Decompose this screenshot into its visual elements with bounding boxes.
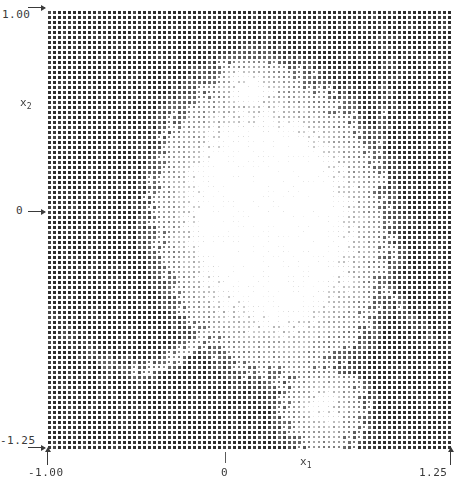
x-axis-tick-label-zero: 0 <box>221 466 228 479</box>
y-axis-title-subscript: 2 <box>27 102 32 111</box>
plot-figure: 1.00 0 -1.25 x2 -1.00 0 1.25 x1 <box>0 0 460 493</box>
y-axis-zero-arrow-icon <box>28 211 45 212</box>
dot-matrix-plot-canvas <box>47 10 451 450</box>
x-axis-zero-tick-icon <box>225 452 226 463</box>
y-axis-title: x2 <box>20 96 31 111</box>
y-axis-min-arrow-icon <box>28 447 45 448</box>
y-axis-tick-label-min: -1.25 <box>0 434 36 447</box>
x-axis-title: x1 <box>300 455 311 470</box>
y-axis-tick-label-max: 1.00 <box>2 8 31 21</box>
y-axis-tick-label-zero: 0 <box>16 204 23 217</box>
x-axis-title-subscript: 1 <box>307 461 312 470</box>
y-axis-max-arrow-icon <box>28 7 45 8</box>
x-axis-tick-label-min: -1.00 <box>28 466 64 479</box>
x-axis-min-arrow-icon <box>47 452 48 465</box>
x-axis-max-arrow-icon <box>450 452 451 465</box>
x-axis-tick-label-max: 1.25 <box>419 466 448 479</box>
